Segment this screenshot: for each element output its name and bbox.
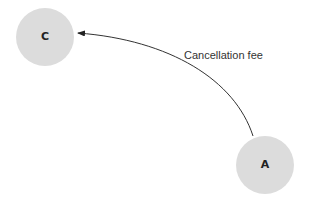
edge-label-cancellation-fee: Cancellation fee — [184, 49, 263, 61]
node-a-label: A — [255, 158, 275, 171]
node-c-label: C — [35, 30, 55, 43]
